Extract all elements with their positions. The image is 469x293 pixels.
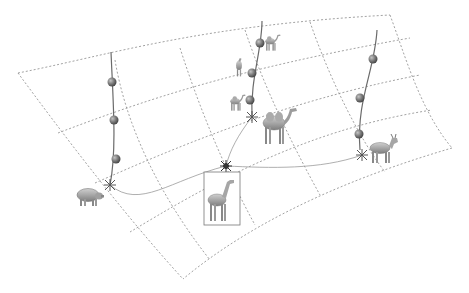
path-node xyxy=(248,69,257,78)
camel-path xyxy=(246,21,265,123)
goat-icon xyxy=(370,134,398,163)
manifold-diagram xyxy=(0,0,469,293)
grid-edge-top xyxy=(18,15,390,73)
path-node xyxy=(110,116,119,125)
small-camel-icon xyxy=(265,34,280,50)
small-camel-icon xyxy=(230,94,245,110)
junction-star-icon xyxy=(246,111,258,123)
path-node xyxy=(108,78,117,87)
pig-icon xyxy=(77,189,104,207)
path-node xyxy=(356,94,365,103)
camel-icon xyxy=(263,108,297,144)
goat-path xyxy=(355,30,378,161)
path-node xyxy=(246,96,255,105)
junction-star-icon xyxy=(356,149,368,161)
camel-to-mean xyxy=(226,117,252,166)
grid-line-v1 xyxy=(115,60,210,260)
diagram-canvas xyxy=(0,0,469,293)
small-camel-icon xyxy=(236,58,242,76)
mean-junction-star-icon xyxy=(220,160,232,172)
path-node xyxy=(112,155,121,164)
path-node xyxy=(355,130,364,139)
path-node xyxy=(256,39,265,48)
junction-star-icon xyxy=(104,179,116,191)
grid-edge-left xyxy=(18,73,183,279)
path-node xyxy=(369,55,378,64)
pig-path xyxy=(104,52,121,191)
goat-to-mean xyxy=(226,155,362,167)
grid-edge-right xyxy=(390,15,452,148)
